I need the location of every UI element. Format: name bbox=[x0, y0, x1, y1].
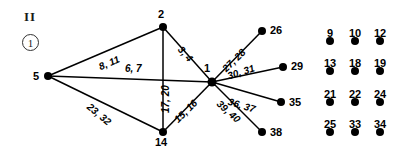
graph-node-label-26: 26 bbox=[270, 24, 282, 36]
isolated-node-label-24: 24 bbox=[368, 88, 392, 100]
graph-node-label-2: 2 bbox=[158, 8, 164, 20]
isolated-node-label-33: 33 bbox=[343, 118, 367, 130]
edge-weight-label-2-14: 17, 20 bbox=[160, 85, 171, 113]
isolated-node-label-22: 22 bbox=[343, 88, 367, 100]
graph-node-label-29: 29 bbox=[291, 60, 303, 72]
graph-node-label-38: 38 bbox=[270, 126, 282, 138]
graph-node-dot-2 bbox=[159, 23, 167, 31]
graph-node-label-14: 14 bbox=[155, 136, 167, 148]
graph-node-dot-14 bbox=[159, 128, 167, 136]
isolated-node-label-34: 34 bbox=[368, 118, 392, 130]
graph-node-dot-26 bbox=[258, 27, 266, 35]
figure-canvas: II 1 2511426293538 8, 116, 723, 323, 417… bbox=[0, 0, 395, 156]
isolated-node-label-9: 9 bbox=[318, 27, 342, 39]
isolated-node-label-18: 18 bbox=[343, 57, 367, 69]
isolated-node-label-10: 10 bbox=[343, 27, 367, 39]
graph-node-label-1: 1 bbox=[204, 62, 210, 74]
graph-node-dot-35 bbox=[277, 98, 285, 106]
isolated-node-label-19: 19 bbox=[368, 57, 392, 69]
isolated-node-label-13: 13 bbox=[318, 57, 342, 69]
graph-edge-5-1 bbox=[48, 76, 212, 82]
graph-node-dot-5 bbox=[44, 72, 52, 80]
graph-node-dot-29 bbox=[279, 63, 287, 71]
graph-node-label-5: 5 bbox=[33, 70, 39, 82]
graph-node-label-35: 35 bbox=[289, 96, 301, 108]
edge-weight-label-5-1: 6, 7 bbox=[125, 63, 142, 74]
node-dot-group bbox=[44, 23, 287, 136]
edge-line-group bbox=[48, 27, 283, 132]
graph-node-dot-1 bbox=[208, 78, 217, 87]
isolated-node-label-12: 12 bbox=[368, 27, 392, 39]
graph-edges-and-nodes bbox=[0, 0, 395, 156]
graph-node-dot-38 bbox=[258, 128, 266, 136]
isolated-node-label-21: 21 bbox=[318, 88, 342, 100]
isolated-node-label-25: 25 bbox=[318, 118, 342, 130]
